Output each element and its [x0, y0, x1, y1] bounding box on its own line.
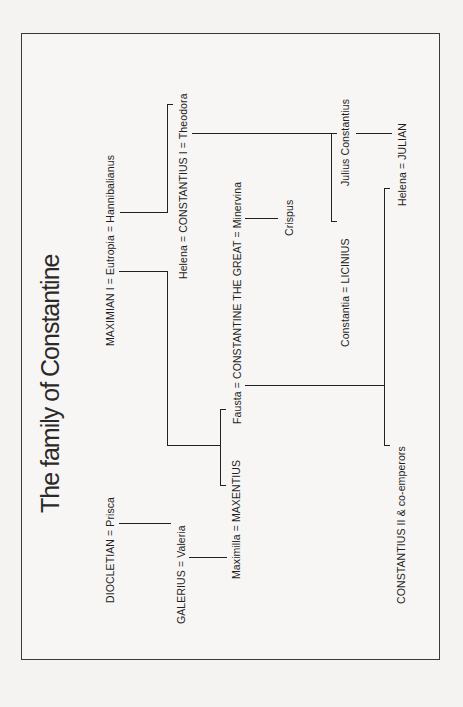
node-maximian-eutropia-hannibalianus: MAXIMIAN I = Eutropia = Hannibalianus — [104, 155, 116, 346]
line-maximian-to-children — [167, 445, 221, 446]
diagram-title: The family of Constantine — [36, 255, 64, 513]
node-crispus: Crispus — [283, 200, 295, 236]
node-fausta-constantine-minervina: Fausta = CONSTANTINE THE GREAT = Minervi… — [231, 182, 243, 424]
line-constantine-crispus — [245, 218, 278, 219]
line-maximian-down — [167, 271, 168, 446]
line-diocletian-valeria — [119, 523, 171, 524]
node-maximilla-maxentius: Maximilla = MAXENTIUS — [230, 460, 242, 579]
line-to-constantius-ii — [384, 445, 390, 446]
line-maximian-children-bracket — [220, 409, 221, 485]
line-to-constantia — [331, 221, 337, 222]
line-to-theodora — [167, 104, 173, 105]
node-helena-constantius-theodora: Helena = CONSTANTIUS I = Theodora — [177, 93, 189, 279]
node-constantia-licinius: Constantia = LICINIUS — [339, 238, 351, 347]
line-maximian-out — [119, 271, 167, 272]
line-to-julius — [331, 133, 337, 134]
line-to-fausta — [220, 409, 226, 410]
node-galerius-valeria: GALERIUS = Valeria — [175, 525, 187, 624]
line-to-maxentius — [220, 485, 226, 486]
line-galerius-maximilla — [189, 557, 227, 558]
node-constantius-ii: CONSTANTIUS II & co-emperors — [395, 446, 407, 604]
line-to-helena — [384, 188, 390, 189]
line-constantine-out — [245, 385, 385, 386]
node-diocletian-prisca: DIOCLETIAN = Prisca — [104, 497, 116, 603]
line-constantine-children — [384, 188, 385, 446]
line-julius-julian — [356, 133, 392, 134]
line-constantius-theodora-out — [192, 133, 332, 134]
line-theodora-children — [331, 133, 332, 222]
line-eutropia-up — [167, 104, 168, 213]
node-julius-constantius: Julius Constantius — [339, 99, 351, 186]
line-eutropia-out — [120, 212, 168, 213]
node-helena-julian: Helena = JULIAN — [396, 123, 408, 206]
